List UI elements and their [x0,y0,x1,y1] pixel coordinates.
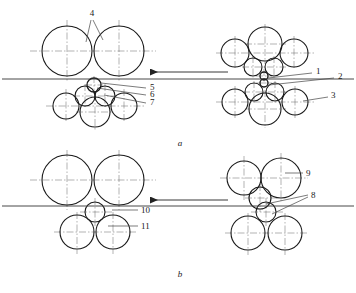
callout-4: 4 [90,8,95,18]
panel-b-left-exit-stand [42,155,144,249]
panel-b: 9 8 10 11 b [2,150,354,279]
panel-b-caption: b [178,269,183,279]
callout-1: 1 [316,66,321,76]
panel-a-caption: a [178,138,183,148]
callout-10: 10 [141,205,151,215]
panel-a-left-centerlines [30,20,156,130]
leader-7 [104,95,146,103]
figure-canvas: 4 5 6 7 1 2 3 a [0,0,356,293]
panel-a: 4 5 6 7 1 2 3 a [2,8,354,148]
callout-8: 8 [311,190,316,200]
panel-b-right-entry-stand [227,158,302,250]
callout-2: 2 [338,71,343,81]
callout-7: 7 [150,97,155,107]
leader-8-to-lower-work [272,197,308,214]
panel-a-leaders [86,20,334,103]
panel-a-right-entry-stand [221,27,308,125]
rolling-mill-roll-arrangement-figure: 4 5 6 7 1 2 3 a [0,0,356,293]
callout-11: 11 [141,221,150,231]
callout-3: 3 [331,90,336,100]
callout-9: 9 [306,168,311,178]
leader-6 [97,88,146,95]
leader-5 [101,83,146,88]
